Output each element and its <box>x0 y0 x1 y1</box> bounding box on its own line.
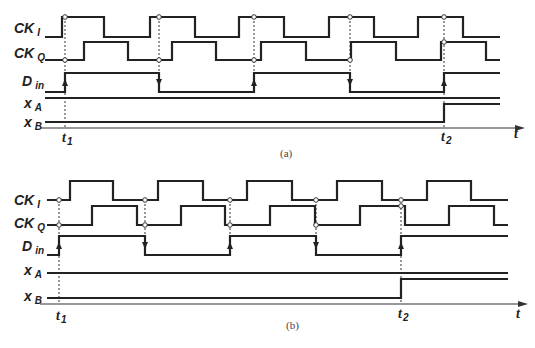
sample-point-marker <box>314 198 319 203</box>
waveform-ck-q <box>47 206 508 225</box>
edge-arrow-up-icon <box>441 79 447 86</box>
time-mark-t2: t2 <box>441 129 452 146</box>
sample-point-marker <box>442 15 447 20</box>
waveform-x-b <box>47 279 508 298</box>
waveform-d-in <box>45 73 500 92</box>
waveform-ck-i <box>45 17 500 37</box>
sample-point-marker <box>399 198 404 203</box>
time-mark-t1: t1 <box>62 130 73 147</box>
panel-a-timing: CKICKQDinxAxBtt1t2(a) <box>14 15 525 160</box>
signal-label-ck-q: CKQ <box>14 45 45 63</box>
signal-label-ck-i: CKI <box>14 20 40 38</box>
signal-label-d-in: Din <box>22 238 44 256</box>
sample-point-marker <box>228 198 233 203</box>
sample-point-marker <box>252 15 257 20</box>
sample-point-marker <box>228 223 233 228</box>
signal-label-x-a: xA <box>23 95 42 113</box>
edge-arrow-up-icon <box>251 79 257 86</box>
sample-point-marker <box>63 58 68 63</box>
time-axis-label: t <box>516 306 521 321</box>
panel-caption-a: (a) <box>280 147 293 160</box>
sample-point-marker <box>314 223 319 228</box>
signal-label-d-in: Din <box>22 73 44 91</box>
time-mark-t1: t1 <box>56 308 67 325</box>
signal-label-x-a: xA <box>23 262 42 280</box>
waveform-x-b <box>45 104 500 122</box>
sample-point-marker <box>157 58 162 63</box>
panel-caption-b: (b) <box>286 319 299 332</box>
edge-arrow-down-icon <box>347 79 353 86</box>
sample-point-marker <box>143 223 148 228</box>
sample-point-marker <box>157 15 162 20</box>
timing-diagram: CKICKQDinxAxBtt1t2(a) CKICKQDinxAxBtt1t2… <box>0 0 535 348</box>
edge-arrow-up-icon <box>56 242 62 249</box>
sample-point-marker <box>442 40 447 45</box>
edge-arrow-down-icon <box>142 242 148 249</box>
edge-arrow-up-icon <box>62 79 68 86</box>
sample-point-marker <box>252 58 257 63</box>
signal-label-ck-q: CKQ <box>14 215 45 233</box>
time-mark-t2: t2 <box>398 306 409 323</box>
edge-arrow-down-icon <box>156 79 162 86</box>
sample-point-marker <box>57 198 62 203</box>
signal-label-ck-i: CKI <box>14 192 40 210</box>
waveform-ck-i <box>47 181 508 200</box>
edge-arrow-down-icon <box>313 242 319 249</box>
panel-b-timing: CKICKQDinxAxBtt1t2(b) <box>14 181 528 332</box>
edge-arrow-up-icon <box>227 242 233 249</box>
signal-label-x-b: xB <box>23 114 42 132</box>
signal-label-x-b: xB <box>23 288 42 306</box>
sample-point-marker <box>63 15 68 20</box>
waveform-d-in <box>47 236 508 255</box>
sample-point-marker <box>348 15 353 20</box>
sample-point-marker <box>57 223 62 228</box>
waveform-ck-q <box>45 42 500 60</box>
sample-point-marker <box>399 204 404 209</box>
sample-point-marker <box>348 58 353 63</box>
edge-arrow-up-icon <box>398 242 404 249</box>
sample-point-marker <box>143 198 148 203</box>
